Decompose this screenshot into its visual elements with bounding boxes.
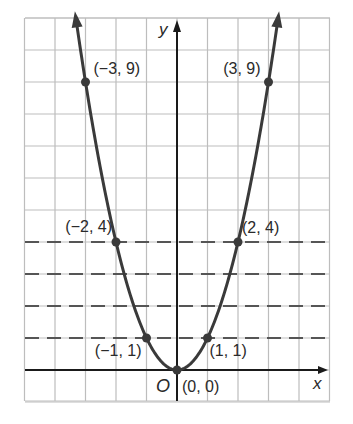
point-label: (1, 1) bbox=[210, 342, 247, 359]
data-point bbox=[81, 78, 90, 87]
x-axis-arrow-icon bbox=[318, 366, 328, 374]
dashed-guide-lines bbox=[25, 242, 325, 338]
origin-label: O bbox=[156, 376, 170, 396]
data-point bbox=[112, 238, 121, 247]
point-label: (2, 4) bbox=[242, 219, 279, 236]
point-labels: (−3, 9)(3, 9)(−2, 4)(2, 4)(−1, 1)(1, 1)(… bbox=[65, 60, 279, 395]
point-label: (3, 9) bbox=[223, 60, 260, 77]
y-axis-arrow-icon bbox=[173, 20, 181, 32]
arrowhead-icon bbox=[72, 11, 83, 28]
x-axis-label: x bbox=[312, 374, 322, 393]
data-point bbox=[234, 238, 243, 247]
data-point bbox=[264, 78, 273, 87]
point-label: (−1, 1) bbox=[95, 342, 142, 359]
point-label: (0, 0) bbox=[182, 378, 219, 395]
data-point bbox=[142, 334, 151, 343]
point-label: (−3, 9) bbox=[94, 60, 141, 77]
y-axis-label: y bbox=[158, 20, 169, 39]
data-point bbox=[173, 366, 182, 375]
arrowhead-icon bbox=[271, 11, 282, 28]
point-label: (−2, 4) bbox=[65, 218, 112, 235]
parabola-graph: (−3, 9)(3, 9)(−2, 4)(2, 4)(−1, 1)(1, 1)(… bbox=[0, 0, 353, 424]
